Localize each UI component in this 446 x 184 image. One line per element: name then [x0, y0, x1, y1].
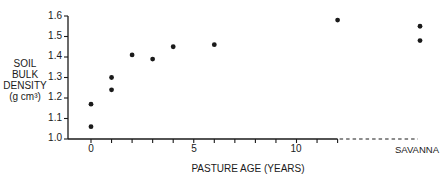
- data-point: [109, 75, 114, 80]
- data-point: [171, 44, 176, 49]
- data-point: [150, 57, 155, 62]
- data-point: [212, 42, 217, 47]
- data-point: [335, 18, 340, 23]
- axes: [64, 16, 418, 143]
- data-point: [89, 102, 94, 107]
- data-point: [418, 24, 423, 29]
- data-point: [130, 53, 135, 58]
- data-point: [418, 38, 423, 43]
- data-point: [89, 124, 94, 129]
- plot-area: [0, 0, 446, 184]
- data-point: [109, 87, 114, 92]
- scatter-chart: SOIL BULK DENSITY (g cm³) 1.0 1.1 1.2 1.…: [0, 0, 446, 184]
- data-points: [89, 18, 423, 129]
